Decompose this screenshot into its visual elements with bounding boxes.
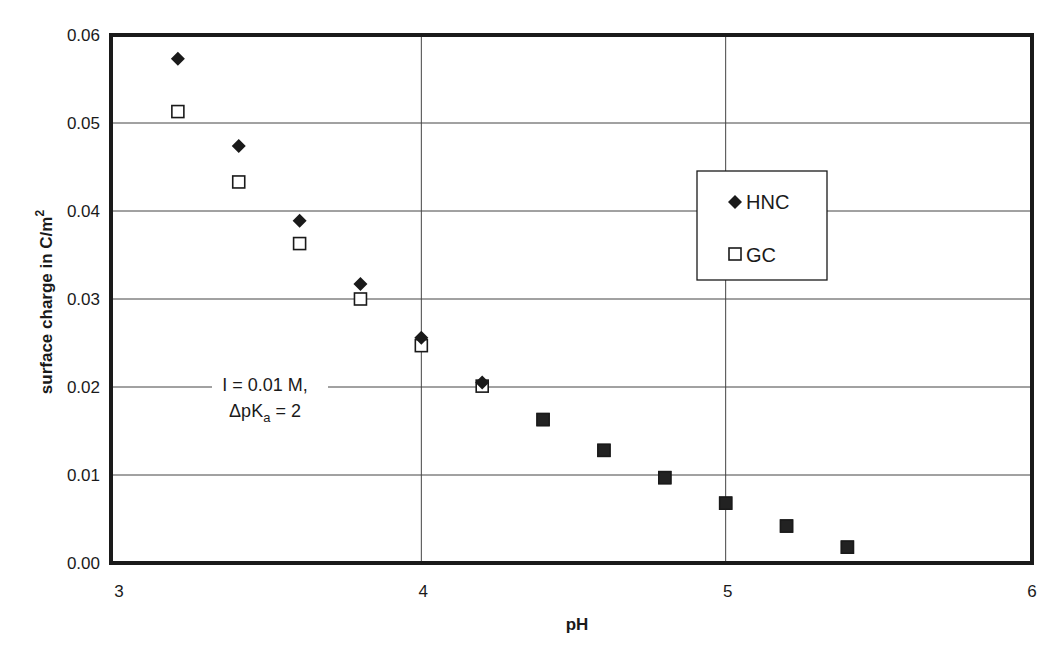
- annotation: I = 0.01 M, ΔpKa = 2: [212, 368, 328, 428]
- gc-point-square-icon: [233, 176, 245, 188]
- y-tick-label: 0.03: [67, 290, 100, 309]
- gc-point-square-icon: [172, 106, 184, 118]
- y-tick-label: 0.06: [67, 26, 100, 45]
- y-axis-title-superscript: 2: [33, 210, 47, 217]
- data-points: [171, 52, 854, 553]
- x-axis-title: pH: [566, 615, 589, 634]
- x-tick-label: 5: [723, 582, 732, 601]
- gc-point-square-icon: [294, 238, 306, 250]
- scatter-chart: 0.000.010.020.030.040.050.06 3456 pH sur…: [0, 0, 1062, 658]
- y-tick-label: 0.02: [67, 378, 100, 397]
- x-tick-label: 4: [419, 582, 428, 601]
- legend-label-hnc: HNC: [746, 191, 789, 213]
- y-axis-title-text: surface charge in C/m: [37, 217, 56, 395]
- hnc-point-diamond-icon: [171, 52, 185, 66]
- legend: HNC GC: [697, 171, 827, 280]
- gridlines: [111, 35, 1032, 563]
- annotation-delta-pka-suffix: = 2: [270, 401, 301, 421]
- y-tick-label: 0.01: [67, 466, 100, 485]
- y-tick-label: 0.00: [67, 554, 100, 573]
- legend-label-gc: GC: [746, 244, 776, 266]
- overlap-point-icon: [720, 497, 732, 509]
- annotation-delta-pka-prefix: ΔpK: [229, 401, 263, 421]
- y-axis-tick-labels: 0.000.010.020.030.040.050.06: [67, 26, 100, 573]
- y-tick-label: 0.04: [67, 202, 100, 221]
- overlap-point-icon: [659, 472, 671, 484]
- annotation-ionic-strength: I = 0.01 M,: [222, 375, 308, 395]
- hnc-point-diamond-icon: [232, 139, 246, 153]
- x-tick-label: 3: [114, 582, 123, 601]
- hnc-point-diamond-icon: [353, 277, 367, 291]
- overlap-point-icon: [841, 541, 853, 553]
- x-tick-label: 6: [1027, 582, 1036, 601]
- overlap-point-icon: [781, 520, 793, 532]
- y-axis-title: surface charge in C/m2: [33, 210, 56, 395]
- x-axis-tick-labels: 3456: [114, 582, 1036, 601]
- hnc-point-diamond-icon: [293, 214, 307, 228]
- legend-gc-square-icon: [729, 248, 741, 260]
- y-tick-label: 0.05: [67, 114, 100, 133]
- overlap-point-icon: [598, 444, 610, 456]
- gc-point-square-icon: [354, 293, 366, 305]
- overlap-point-icon: [537, 414, 549, 426]
